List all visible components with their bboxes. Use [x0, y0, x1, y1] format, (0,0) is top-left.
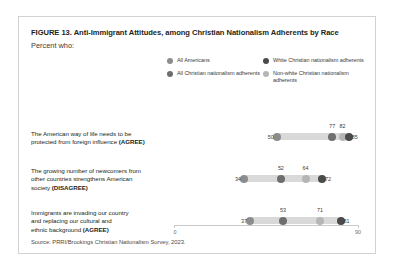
- data-point-value: 85: [349, 134, 358, 140]
- data-point-value: 37: [241, 218, 250, 224]
- legend-item-label: All Americans: [177, 57, 210, 64]
- legend-dot-icon: [263, 58, 269, 64]
- data-point: [279, 217, 287, 225]
- data-point: [316, 217, 324, 225]
- x-axis-line: [174, 225, 359, 226]
- chart-row: The American way of life needs to beprot…: [19, 121, 375, 155]
- data-point-value: 64: [303, 165, 309, 171]
- x-axis: 0 90: [174, 225, 359, 239]
- data-point-value: 71: [317, 207, 323, 213]
- data-point-value: 52: [278, 165, 284, 171]
- data-point: [328, 133, 336, 141]
- data-point-value: 50: [268, 134, 277, 140]
- legend-dot-icon: [167, 58, 173, 64]
- legend-item-label: Non-white Christian nationalism adherent…: [273, 70, 367, 84]
- x-axis-tick-min: [174, 225, 175, 228]
- data-point-value: 77: [329, 123, 335, 129]
- legend-item-white_cn_adherents: White Christian nationalism adherents: [263, 57, 367, 64]
- data-point: [302, 175, 310, 183]
- figure-subtitle: Percent who:: [31, 41, 74, 50]
- legend-dot-icon: [263, 71, 269, 77]
- data-point: [277, 175, 285, 183]
- data-point-value: 72: [322, 176, 331, 182]
- legend-item-all_cn_adherents: All Christian nationalism adherents: [167, 70, 263, 84]
- data-point-value: 34: [235, 176, 244, 182]
- range-track: [250, 217, 340, 224]
- x-axis-label-max: 90: [355, 229, 361, 235]
- row-label: The American way of life needs to beprot…: [31, 130, 171, 147]
- legend-item-nonwhite_cn_adherents: Non-white Christian nationalism adherent…: [263, 70, 367, 84]
- row-plot: 50778285: [174, 121, 359, 155]
- legend-dot-icon: [167, 71, 173, 77]
- row-plot: 34526472: [174, 163, 359, 197]
- legend-item-label: White Christian nationalism adherents: [273, 57, 364, 64]
- figure-title: FIGURE 13. Anti-Immigrant Attitudes, amo…: [31, 28, 367, 38]
- legend-item-label: All Christian nationalism adherents: [177, 70, 260, 77]
- legend-item-all_americans: All Americans: [167, 57, 263, 64]
- chart-legend: All AmericansWhite Christian nationalism…: [167, 57, 367, 84]
- chart-row: The growing number of newcomers fromothe…: [19, 163, 375, 197]
- data-point-value: 53: [280, 207, 286, 213]
- x-axis-tick-max: [358, 225, 359, 228]
- source-note: Source: PRRI/Brookings Christian Nationa…: [31, 239, 185, 245]
- x-axis-label-min: 0: [174, 229, 177, 235]
- row-label: Immigrants are invading our countryand r…: [31, 209, 171, 234]
- row-label: The growing number of newcomers fromothe…: [31, 167, 171, 192]
- data-point-value: 82: [340, 123, 346, 129]
- data-point-value: 81: [341, 218, 350, 224]
- figure-card: FIGURE 13. Anti-Immigrant Attitudes, amo…: [18, 16, 376, 254]
